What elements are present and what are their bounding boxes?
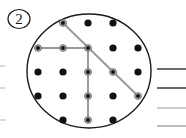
left-edge-stubs [0,66,6,120]
grid-dot [34,92,41,99]
question-number-label: 2 [15,11,23,27]
grid-dot [59,116,66,123]
answer-lines [157,69,186,126]
figure-page: 2 [0,0,186,138]
grid-dot [134,68,141,75]
dot-grid-figure: 2 [0,0,186,138]
grid-dot [84,19,91,26]
grid-dot [59,68,66,75]
grid-dot [109,116,116,123]
grid-dot [109,19,116,26]
grid-dot [34,68,41,75]
question-number-badge: 2 [8,10,30,29]
grid-dot [109,92,116,99]
grid-dot [134,44,141,51]
grid-dot [59,92,66,99]
grid-dot [109,44,116,51]
